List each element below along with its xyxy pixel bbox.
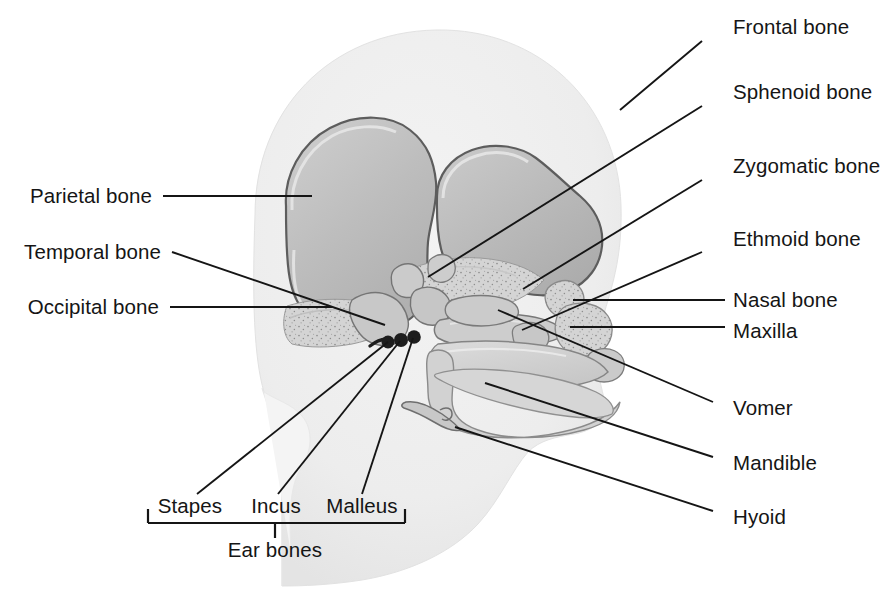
label-sphenoid-bone: Sphenoid bone [733,80,872,104]
label-ethmoid-bone: Ethmoid bone [733,227,861,251]
leader-line-frontal [620,41,702,110]
label-malleus: Malleus [315,494,409,518]
label-ear-bones-group: Ear bones [200,538,350,562]
label-maxilla: Maxilla [733,319,798,343]
label-temporal-bone: Temporal bone [0,240,161,264]
label-zygomatic-bone: Zygomatic bone [733,154,880,178]
label-stapes: Stapes [145,494,235,518]
label-parietal-bone: Parietal bone [0,184,152,208]
label-mandible: Mandible [733,451,817,475]
vomer-shape [445,296,518,327]
label-occipital-bone: Occipital bone [0,295,159,319]
label-incus: Incus [235,494,317,518]
label-frontal-bone: Frontal bone [733,15,849,39]
label-nasal-bone: Nasal bone [733,288,838,312]
label-vomer: Vomer [733,396,793,420]
label-hyoid: Hyoid [733,505,786,529]
